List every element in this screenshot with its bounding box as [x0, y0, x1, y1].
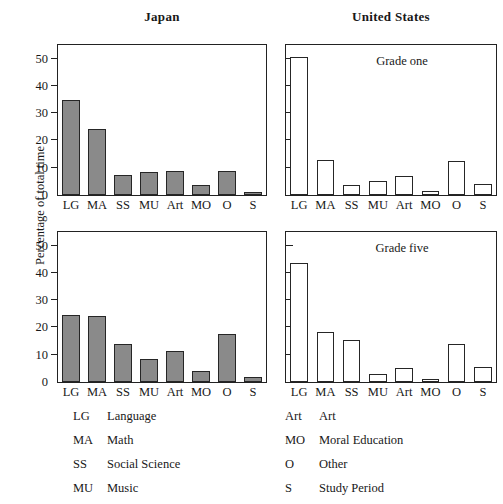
bar-Art — [166, 351, 183, 382]
bar-slot-O — [214, 45, 240, 195]
x-axis-label-MU: MU — [365, 198, 391, 213]
bar-LG — [290, 263, 307, 382]
bar-MO — [192, 185, 209, 195]
x-axis-category-labels: LGMASSMUArtMOOS — [58, 195, 266, 213]
x-axis-label-S: S — [240, 198, 266, 213]
bar-SS — [114, 175, 131, 195]
x-axis-label-LG: LG — [58, 198, 84, 213]
bar-slot-MO — [417, 232, 443, 382]
x-axis-label-SS: SS — [110, 198, 136, 213]
bar-slot-MU — [136, 45, 162, 195]
bar-slot-S — [240, 45, 266, 195]
x-axis-label-O: O — [444, 198, 470, 213]
legend-name-Art: Art — [319, 409, 336, 424]
x-axis-label-LG: LG — [286, 198, 312, 213]
legend-row-MU: MUMusic — [73, 476, 180, 500]
x-axis-label-MA: MA — [84, 385, 110, 400]
y-axis-tick-label-0: 0 — [42, 188, 48, 203]
x-axis-label-SS: SS — [339, 198, 365, 213]
bar-MO — [192, 371, 209, 382]
legend-row-S: SStudy Period — [285, 476, 403, 500]
bar-slot-SS — [110, 45, 136, 195]
bar-slot-LG — [58, 45, 84, 195]
legend-row-LG: LGLanguage — [73, 404, 180, 428]
x-axis-label-LG: LG — [286, 385, 312, 400]
x-axis-label-O: O — [214, 198, 240, 213]
x-axis-label-MO: MO — [188, 198, 214, 213]
bar-slot-MA — [84, 45, 110, 195]
x-axis-label-Art: Art — [162, 385, 188, 400]
panel-us-grade-five: Grade fiveLGMASSMUArtMOOS — [285, 231, 497, 383]
y-axis-tick-20 — [51, 326, 58, 327]
bar-slot-O — [444, 232, 470, 382]
bar-slot-MA — [84, 232, 110, 382]
y-axis-tick-10 — [51, 354, 58, 355]
bar-MU — [369, 181, 386, 195]
x-axis-label-MU: MU — [136, 385, 162, 400]
bar-slot-S — [470, 45, 496, 195]
x-axis-label-S: S — [240, 385, 266, 400]
y-axis-tick-40 — [51, 85, 58, 86]
bar-slot-LG — [58, 232, 84, 382]
bar-O — [448, 344, 465, 382]
y-axis-tick-label-20: 20 — [36, 133, 49, 148]
y-axis-tick-50 — [51, 58, 58, 59]
x-axis-label-MO: MO — [188, 385, 214, 400]
bar-slot-MA — [312, 232, 338, 382]
x-axis-label-MA: MA — [312, 198, 338, 213]
legend-abbr-MA: MA — [73, 433, 107, 448]
bar-S — [474, 184, 491, 195]
x-axis-label-Art: Art — [391, 198, 417, 213]
legend-row-MA: MAMath — [73, 428, 180, 452]
x-axis-label-SS: SS — [339, 385, 365, 400]
bar-SS — [343, 185, 360, 195]
bar-LG — [62, 315, 79, 382]
legend-name-O: Other — [319, 457, 347, 472]
bar-MU — [369, 374, 386, 382]
bar-Art — [395, 176, 412, 195]
column-title-united-states: United States — [285, 9, 497, 25]
legend-name-LG: Language — [107, 409, 156, 424]
y-axis-tick-label-20: 20 — [36, 320, 49, 335]
legend-abbr-LG: LG — [73, 409, 107, 424]
bar-group — [286, 232, 496, 382]
bar-slot-LG — [286, 45, 312, 195]
bar-slot-Art — [391, 45, 417, 195]
bar-slot-MO — [417, 45, 443, 195]
bar-MA — [88, 316, 105, 382]
x-axis-label-LG: LG — [58, 385, 84, 400]
y-axis-tick-label-30: 30 — [36, 293, 49, 308]
x-axis-label-S: S — [470, 198, 496, 213]
x-axis-label-MU: MU — [365, 385, 391, 400]
x-axis-label-Art: Art — [391, 385, 417, 400]
legend-name-MU: Music — [107, 481, 138, 496]
x-axis-category-labels: LGMASSMUArtMOOS — [286, 195, 496, 213]
legend-name-MA: Math — [107, 433, 133, 448]
bar-slot-Art — [162, 232, 188, 382]
column-title-japan: Japan — [57, 9, 267, 25]
y-axis-tick-40 — [51, 272, 58, 273]
legend-abbr-MU: MU — [73, 481, 107, 496]
bar-slot-O — [444, 45, 470, 195]
bar-slot-Art — [391, 232, 417, 382]
bar-SS — [343, 340, 360, 382]
bar-O — [448, 161, 465, 195]
bar-slot-MU — [136, 232, 162, 382]
bar-slot-SS — [110, 232, 136, 382]
bar-MA — [88, 129, 105, 195]
bar-group — [286, 45, 496, 195]
x-axis-label-MA: MA — [84, 198, 110, 213]
bar-slot-S — [470, 232, 496, 382]
legend-abbr-O: O — [285, 457, 319, 472]
legend-name-SS: Social Science — [107, 457, 180, 472]
bar-LG — [290, 57, 307, 195]
x-axis-label-MU: MU — [136, 198, 162, 213]
bar-slot-MU — [365, 45, 391, 195]
plot-area-us-grade-five: Grade fiveLGMASSMUArtMOOS — [286, 232, 496, 382]
bar-Art — [166, 171, 183, 195]
legend-row-Art: ArtArt — [285, 404, 403, 428]
bar-slot-MA — [312, 45, 338, 195]
plot-area-us-grade-one: Grade oneLGMASSMUArtMOOS — [286, 45, 496, 195]
y-axis-label: Percentage of total time — [33, 96, 48, 316]
legend-abbr-MO: MO — [285, 433, 319, 448]
